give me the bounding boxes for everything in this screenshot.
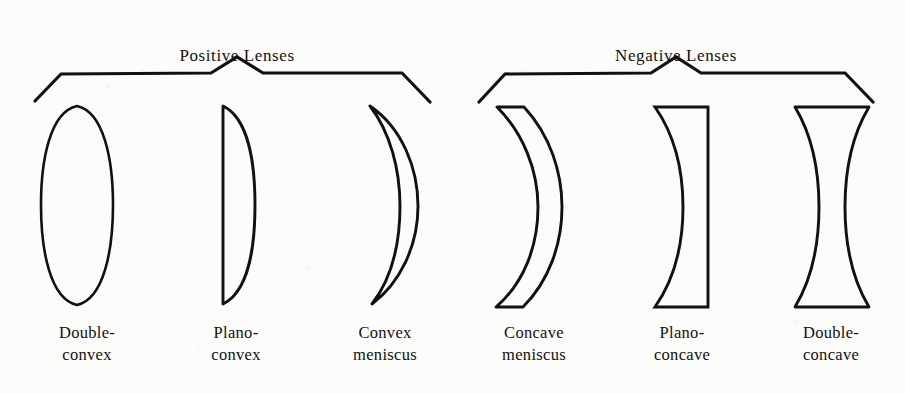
label-line-1: Double- xyxy=(803,323,859,342)
label-double-concave: Double- concave xyxy=(803,322,859,366)
label-plano-concave: Plano- concave xyxy=(654,322,710,366)
plano-concave-lens-shape xyxy=(655,107,708,307)
label-line-2: concave xyxy=(654,344,710,366)
double-convex-lens-shape xyxy=(41,106,113,305)
label-line-1: Convex xyxy=(358,323,411,342)
label-line-1: Plano- xyxy=(660,323,705,342)
lens-types-figure: Positive Lenses Negative Lenses Double- … xyxy=(0,0,905,393)
label-double-convex: Double- convex xyxy=(59,322,115,366)
label-line-1: Plano- xyxy=(214,323,259,342)
lens-diagram-canvas xyxy=(0,0,905,393)
label-convex-meniscus: Convex meniscus xyxy=(353,322,417,366)
label-line-1: Double- xyxy=(59,323,115,342)
label-line-2: convex xyxy=(211,344,260,366)
label-plano-convex: Plano- convex xyxy=(211,322,260,366)
label-line-2: meniscus xyxy=(502,344,566,366)
double-concave-lens-shape xyxy=(795,107,869,307)
label-line-2: meniscus xyxy=(353,344,417,366)
label-line-2: concave xyxy=(803,344,859,366)
concave-meniscus-lens-shape xyxy=(496,107,562,307)
negative-lenses-title: Negative Lenses xyxy=(615,46,737,66)
label-line-2: convex xyxy=(59,344,115,366)
convex-meniscus-lens-shape xyxy=(370,106,418,304)
label-concave-meniscus: Concave meniscus xyxy=(502,322,566,366)
label-line-1: Concave xyxy=(504,323,564,342)
positive-lenses-title: Positive Lenses xyxy=(179,46,294,66)
plano-convex-lens-shape xyxy=(223,106,255,304)
